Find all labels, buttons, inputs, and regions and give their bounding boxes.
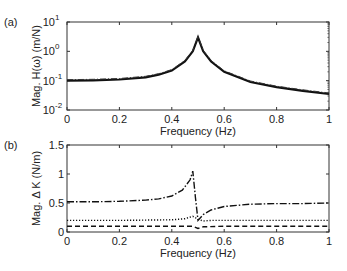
x-tick-label: 0.2 — [112, 113, 127, 125]
series-line — [67, 37, 329, 94]
y-tick-label: 0.5 — [49, 197, 64, 209]
figure: 00.20.40.60.8110-210-1100101Frequency (H… — [0, 0, 347, 271]
panel-label: (a) — [4, 16, 17, 28]
x-tick-label: 0 — [64, 113, 70, 125]
y-tick-label: 10 — [43, 45, 55, 57]
chart-panel-b: 00.20.40.60.8100.511.5Frequency (Hz)Mag.… — [4, 139, 332, 259]
x-tick-label: 0 — [64, 235, 70, 247]
x-tick-label: 0.8 — [269, 235, 284, 247]
y-tick-label: 10 — [43, 104, 55, 116]
y-tick-label: 10 — [43, 16, 55, 28]
chart-panel-a: 00.20.40.60.8110-210-1100101Frequency (H… — [4, 13, 332, 137]
x-tick-label: 0.4 — [164, 113, 179, 125]
x-tick-label: 0.4 — [164, 235, 179, 247]
y-tick-exponent: 1 — [55, 13, 60, 22]
y-tick-label: 0 — [58, 226, 64, 238]
x-tick-label: 1 — [326, 113, 332, 125]
y-tick-exponent: 0 — [55, 42, 60, 51]
x-tick-label: 0.8 — [269, 113, 284, 125]
series-line-dash-dot — [67, 171, 329, 220]
y-axis-label: Mag. Δ K (N/m) — [30, 151, 42, 226]
y-axis-label: Mag. H(ω) (m/N) — [30, 25, 42, 107]
x-tick-label: 0.2 — [112, 235, 127, 247]
x-tick-label: 0.6 — [217, 235, 232, 247]
x-axis-label: Frequency (Hz) — [160, 125, 236, 137]
series-line-dashed — [67, 226, 329, 228]
panel-label: (b) — [4, 139, 17, 151]
x-tick-label: 0.6 — [217, 113, 232, 125]
y-tick-label: 10 — [43, 75, 55, 87]
x-axis-label: Frequency (Hz) — [160, 247, 236, 259]
y-tick-exponent: -1 — [55, 72, 63, 81]
y-tick-label: 1.5 — [49, 139, 64, 151]
series-line-overlap — [67, 36, 329, 93]
x-tick-label: 1 — [326, 235, 332, 247]
y-tick-label: 1 — [58, 168, 64, 180]
y-tick-exponent: -2 — [55, 101, 63, 110]
